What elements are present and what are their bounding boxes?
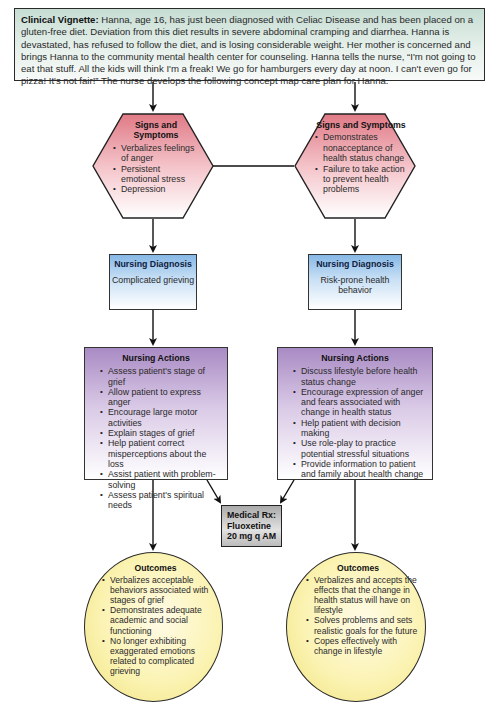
nursing-diagnosis-right: Nursing Diagnosis Risk-prone health beha…	[308, 254, 402, 310]
nursing-diagnosis-left: Nursing Diagnosis Complicated grieving	[109, 254, 197, 310]
outcome-item: Verbalizes acceptable behaviors associat…	[110, 575, 216, 605]
diagnosis-title: Nursing Diagnosis	[110, 259, 196, 270]
action-item: Assist patient with problem-solving	[108, 469, 221, 490]
outcome-item: Verbalizes and accepts the effects that …	[314, 575, 419, 615]
outcomes-right: Outcomes Verbalizes and accepts the effe…	[286, 552, 426, 702]
action-item: Help patient correct misperceptions abou…	[108, 438, 221, 469]
sign-item: Persistent emotional stress	[121, 164, 200, 185]
rx-drug: Fluoxetine	[227, 521, 281, 532]
outcome-item: No longer exhibiting exaggerated emotion…	[110, 636, 216, 676]
rx-dose: 20 mg q AM	[227, 531, 281, 542]
action-item: Assess patient's spiritual needs	[108, 490, 221, 511]
outcome-item: Solves problems and sets realistic goals…	[314, 615, 419, 635]
action-item: Discuss lifestyle before health status c…	[301, 366, 426, 387]
outcomes-title: Outcomes	[95, 563, 216, 573]
diagnosis-title: Nursing Diagnosis	[309, 259, 401, 270]
sign-item: Demonstrates nonacceptance of health sta…	[323, 132, 408, 163]
nursing-actions-left: Nursing Actions Assess patient's stage o…	[84, 347, 228, 480]
action-item: Help patient with decision making	[301, 418, 426, 439]
action-item: Use role-play to practice potential stre…	[301, 438, 426, 459]
actions-title: Nursing Actions	[91, 353, 221, 363]
signs-symptoms-left: Signs and Symptoms Verbalizes feelings o…	[92, 113, 214, 219]
action-item: Assess patient's stage of grief	[108, 366, 221, 387]
action-item: Encourage expression of anger and fears …	[301, 387, 426, 418]
diagnosis-value: Risk-prone health behavior	[309, 275, 401, 296]
sign-item: Failure to take action to prevent health…	[323, 164, 408, 195]
outcome-item: Demonstrates adequate academic and socia…	[110, 605, 216, 635]
clinical-vignette-box: Clinical Vignette: Hanna, age 16, has ju…	[14, 8, 485, 81]
outcome-item: Copes effectively with change in lifesty…	[314, 636, 419, 656]
medical-rx-box: Medical Rx: Fluoxetine 20 mg q AM	[221, 505, 282, 547]
sign-item: Verbalizes feelings of anger	[121, 143, 200, 164]
signs-title: Signs and Symptoms	[112, 120, 200, 141]
diagnosis-value: Complicated grieving	[110, 275, 196, 286]
nursing-actions-right: Nursing Actions Discuss lifestyle before…	[277, 347, 433, 480]
sign-item: Depression	[121, 184, 200, 194]
action-item: Allow patient to express anger	[108, 387, 221, 408]
action-item: Explain stages of grief	[108, 428, 221, 438]
outcomes-left: Outcomes Verbalizes acceptable behaviors…	[84, 552, 223, 702]
action-item: Provide information to patient and famil…	[301, 459, 426, 480]
rx-label: Medical Rx:	[227, 510, 281, 521]
outcomes-title: Outcomes	[297, 563, 419, 573]
vignette-label: Clinical Vignette:	[21, 14, 99, 25]
actions-title: Nursing Actions	[284, 353, 426, 363]
signs-symptoms-right: Signs and Symptoms Demonstrates nonaccep…	[294, 113, 416, 219]
signs-title: Signs and Symptoms	[314, 120, 408, 130]
action-item: Encourage large motor activities	[108, 407, 221, 428]
